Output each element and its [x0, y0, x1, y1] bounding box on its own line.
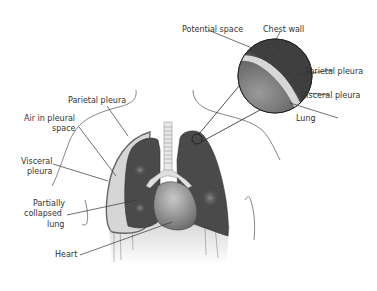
label-air-in-pleural-space-2: space — [52, 124, 76, 133]
label-partially-collapsed-lung: Partially — [33, 199, 65, 208]
label-visceral-pleura-inset: Visceral pleura — [301, 91, 361, 100]
label-lung-inset: Lung — [296, 114, 316, 123]
label-partially-collapsed-lung-3: lung — [47, 220, 64, 229]
label-visceral-pleura-2: pleura — [27, 167, 53, 176]
label-parietal-pleura-inset: Parietal pleura — [305, 67, 363, 76]
label-visceral-pleura: Visceral — [21, 157, 52, 166]
label-air-in-pleural-space: Air in pleural — [24, 114, 75, 123]
label-potential-space: Potential space — [182, 25, 243, 34]
label-parietal-pleura: Parietal pleura — [68, 96, 126, 105]
label-partially-collapsed-lung-2: collapsed — [24, 209, 62, 218]
pneumothorax-diagram: Potential space Chest wall Parietal pleu… — [0, 0, 377, 291]
label-heart: Heart — [55, 250, 77, 259]
label-chest-wall: Chest wall — [263, 25, 304, 34]
